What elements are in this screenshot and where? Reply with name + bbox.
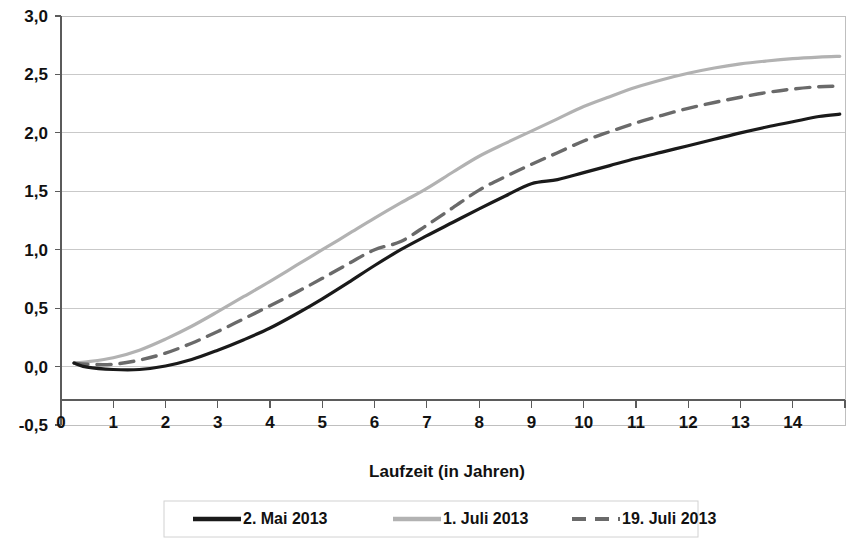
series-line: [74, 114, 840, 370]
y-tick-label: 1,0: [24, 241, 48, 260]
legend-label: 2. Mai 2013: [243, 510, 328, 527]
x-axis-tick-labels: 01234567891011121314: [56, 413, 802, 432]
y-tick-label: 0,0: [24, 358, 48, 377]
series-line: [74, 86, 840, 364]
x-tick-label: 11: [627, 413, 645, 432]
y-tick-label: 3,0: [24, 7, 48, 26]
x-tick-label: 8: [474, 413, 483, 432]
x-tick-label: 4: [265, 413, 275, 432]
y-axis-tickmarks: [55, 16, 61, 425]
y-tick-label: 2,5: [24, 65, 48, 84]
line-chart: -0,50,00,51,01,52,02,53,0 01234567891011…: [0, 0, 855, 545]
x-tick-label: 10: [574, 413, 593, 432]
x-tick-label: 5: [318, 413, 327, 432]
x-tick-label: 0: [56, 413, 65, 432]
x-tick-label: 2: [161, 413, 170, 432]
legend-label: 19. Juli 2013: [622, 510, 716, 527]
y-tick-label: 2,0: [24, 124, 48, 143]
x-tick-label: 12: [679, 413, 698, 432]
y-axis-tick-labels: -0,50,00,51,01,52,02,53,0: [19, 7, 48, 435]
x-tick-label: 14: [783, 413, 802, 432]
y-tick-label: 1,5: [24, 182, 48, 201]
x-axis: [61, 400, 845, 408]
data-series-group: [74, 56, 840, 370]
x-tick-label: 6: [370, 413, 379, 432]
legend-label: 1. Juli 2013: [443, 510, 528, 527]
chart-legend: 2. Mai 20131. Juli 201319. Juli 2013: [164, 501, 716, 537]
x-tick-label: 1: [109, 413, 118, 432]
x-tick-label: 7: [422, 413, 431, 432]
x-tick-label: 3: [213, 413, 222, 432]
legend-items: 2. Mai 20131. Juli 201319. Juli 2013: [193, 510, 716, 527]
y-tick-label: 0,5: [24, 299, 48, 318]
y-tick-label: -0,5: [19, 416, 48, 435]
x-axis-title: Laufzeit (in Jahren): [369, 462, 525, 481]
x-axis-tickmarks: [61, 400, 845, 408]
series-line: [74, 56, 840, 363]
chart-container: -0,50,00,51,01,52,02,53,0 01234567891011…: [0, 0, 855, 545]
x-tick-label: 9: [527, 413, 536, 432]
x-tick-label: 13: [731, 413, 750, 432]
